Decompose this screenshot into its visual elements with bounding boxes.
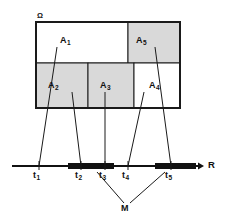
tick-label-t3-subscript: 3 <box>102 174 106 181</box>
set-partition-diagram: Ω A1 A2 A3 A4 A5 t1 t2 t3 t4 t5 R M <box>0 0 228 223</box>
tick-label-t4: t4 <box>122 170 129 181</box>
tick-label-t2: t2 <box>75 170 82 181</box>
omega-partition-regions <box>36 22 180 108</box>
region-label-a3: A3 <box>100 80 111 91</box>
tick-label-t1: t1 <box>33 170 40 181</box>
set-label-m: M <box>121 203 129 213</box>
region-a2-rect <box>36 63 88 108</box>
diagram-canvas <box>0 0 228 223</box>
omega-label: Ω <box>37 11 43 20</box>
region-label-a1: A1 <box>60 35 71 46</box>
region-a1-rect <box>36 22 128 63</box>
region-label-a2-base: A <box>48 80 55 90</box>
region-label-a5-subscript: 5 <box>143 39 147 46</box>
tick-label-t2-subscript: 2 <box>78 174 82 181</box>
region-label-a1-base: A <box>60 35 67 45</box>
tick-label-t1-subscript: 1 <box>36 174 40 181</box>
region-label-a4-base: A <box>149 80 156 90</box>
tick-label-t4-subscript: 4 <box>125 174 129 181</box>
tick-label-t5-subscript: 5 <box>168 174 172 181</box>
region-label-a2-subscript: 2 <box>55 84 59 91</box>
axis-arrowhead <box>198 163 204 170</box>
tick-label-t3: t3 <box>99 170 106 181</box>
region-label-a5: A5 <box>136 35 147 46</box>
region-a3-rect <box>88 63 134 108</box>
region-label-a3-base: A <box>100 80 107 90</box>
region-label-a2: A2 <box>48 80 59 91</box>
region-label-a1-subscript: 1 <box>67 39 71 46</box>
region-label-a4-subscript: 4 <box>156 84 160 91</box>
tick-label-t5: t5 <box>165 170 172 181</box>
m-pointer-lines <box>97 172 165 203</box>
region-label-a4: A4 <box>149 80 160 91</box>
region-label-a3-subscript: 3 <box>107 84 111 91</box>
region-label-a5-base: A <box>136 35 143 45</box>
axis-label-r: R <box>208 159 215 170</box>
m-pointer-right <box>130 172 165 203</box>
